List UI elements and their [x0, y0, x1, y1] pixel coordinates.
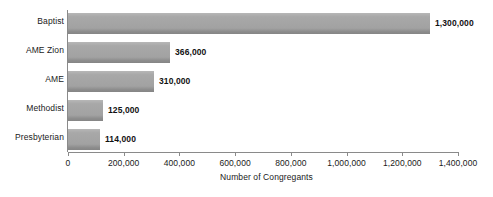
x-tick-800000 [291, 152, 292, 156]
category-label-methodist: Methodist [0, 103, 64, 113]
category-label-baptist: Baptist [0, 16, 64, 26]
x-tick-label-0: 0 [66, 158, 71, 168]
x-axis-line [68, 152, 458, 153]
x-axis-title: Number of Congregants [220, 172, 313, 182]
x-tick-label-800000: 800,000 [275, 158, 306, 168]
value-label-presbyterian: 114,000 [105, 134, 136, 144]
x-tick-label-200000: 200,000 [108, 158, 139, 168]
category-label-ame-zion: AME Zion [0, 45, 64, 55]
x-tick-1200000 [402, 152, 403, 156]
bar-ame-zion[interactable] [68, 42, 170, 63]
bar-baptist[interactable] [68, 13, 430, 34]
value-label-methodist: 125,000 [108, 105, 139, 115]
plot-area: Baptist AME Zion AME Methodist Presbyter… [0, 0, 493, 197]
y-axis-line [67, 10, 68, 152]
x-tick-label-1200000: 1,200,000 [383, 158, 422, 168]
x-tick-400000 [179, 152, 180, 156]
x-tick-0 [68, 152, 69, 156]
bar-ame[interactable] [68, 71, 154, 92]
bar-presbyterian[interactable] [68, 129, 100, 150]
x-tick-1400000 [458, 152, 459, 156]
value-label-baptist: 1,300,000 [435, 18, 474, 28]
x-tick-600000 [235, 152, 236, 156]
x-tick-label-1000000: 1,000,000 [327, 158, 366, 168]
x-tick-1000000 [347, 152, 348, 156]
x-tick-label-400000: 400,000 [164, 158, 195, 168]
value-label-ame: 310,000 [159, 76, 190, 86]
bar-chart: Baptist AME Zion AME Methodist Presbyter… [0, 0, 493, 197]
category-label-ame: AME [0, 74, 64, 84]
value-label-ame-zion: 366,000 [175, 47, 206, 57]
x-tick-label-600000: 600,000 [219, 158, 250, 168]
bar-methodist[interactable] [68, 100, 103, 121]
x-axis-title-wrap: Number of Congregants [0, 172, 493, 182]
x-tick-label-1400000: 1,400,000 [439, 158, 478, 168]
x-tick-200000 [124, 152, 125, 156]
category-label-presbyterian: Presbyterian [0, 132, 64, 142]
